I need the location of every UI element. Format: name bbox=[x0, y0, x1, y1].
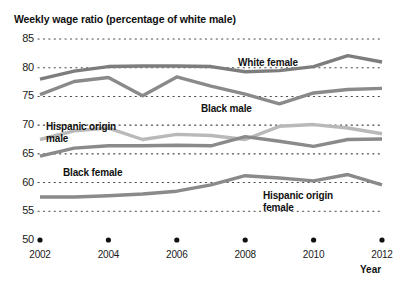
x-tick-2008: 2008 bbox=[223, 249, 267, 260]
chart-plot-area bbox=[0, 0, 395, 289]
y-tick-85: 85 bbox=[8, 32, 34, 44]
y-tick-80: 80 bbox=[8, 61, 34, 73]
series-label-black-male: Black male bbox=[201, 103, 252, 115]
x-axis-marker-2002 bbox=[37, 237, 42, 242]
x-tick-2012: 2012 bbox=[360, 249, 395, 260]
x-axis-marker-2006 bbox=[174, 237, 179, 242]
chart-container: Weekly wage ratio (percentage of white m… bbox=[0, 0, 395, 289]
x-axis-marker-2012 bbox=[379, 237, 384, 242]
x-axis-marker-2008 bbox=[243, 237, 248, 242]
series-label-white-female: White female bbox=[238, 57, 298, 69]
x-tick-2002: 2002 bbox=[18, 249, 62, 260]
series-label-black-female: Black female bbox=[63, 167, 122, 179]
x-tick-2004: 2004 bbox=[86, 249, 130, 260]
y-tick-50: 50 bbox=[8, 233, 34, 245]
y-tick-70: 70 bbox=[8, 118, 34, 130]
series-label-hispanic-origin-female: Hispanic originfemale bbox=[263, 190, 333, 213]
x-tick-2010: 2010 bbox=[292, 249, 336, 260]
x-tick-2006: 2006 bbox=[155, 249, 199, 260]
series-line-black-male bbox=[40, 77, 382, 104]
x-axis-marker-2004 bbox=[106, 237, 111, 242]
y-tick-65: 65 bbox=[8, 147, 34, 159]
x-axis-marker-2010 bbox=[311, 237, 316, 242]
y-tick-75: 75 bbox=[8, 89, 34, 101]
y-tick-55: 55 bbox=[8, 204, 34, 216]
y-tick-60: 60 bbox=[8, 176, 34, 188]
series-label-hispanic-origin-male: Hispanic originmale bbox=[46, 121, 116, 144]
x-axis-title: Year bbox=[360, 264, 381, 275]
